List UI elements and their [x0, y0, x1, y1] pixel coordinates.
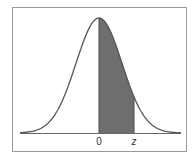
tick-label-z: z [132, 137, 137, 147]
normal-distribution-figure [0, 0, 196, 155]
tick-label-zero: 0 [96, 137, 102, 147]
